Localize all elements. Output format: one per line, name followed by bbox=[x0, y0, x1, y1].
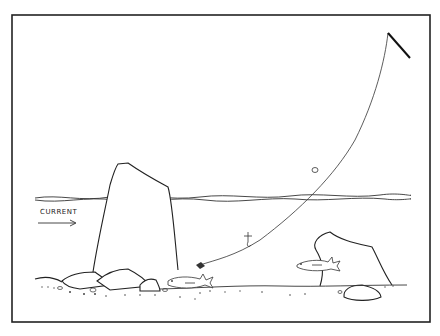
water-surface bbox=[35, 194, 411, 201]
sinker-icon bbox=[196, 262, 205, 269]
fishing-line bbox=[200, 33, 388, 265]
rod-tip bbox=[388, 33, 410, 58]
right-rock bbox=[315, 232, 392, 286]
tall-rock bbox=[93, 163, 178, 272]
current-arrow bbox=[38, 220, 76, 226]
float-icon bbox=[312, 168, 318, 173]
fishing-illustration bbox=[0, 0, 440, 336]
current-label: CURRENT bbox=[40, 208, 77, 216]
dropper-hook-icon bbox=[244, 232, 252, 246]
right-bottom-rock bbox=[344, 285, 381, 300]
fish-icon-bottom bbox=[168, 274, 213, 288]
